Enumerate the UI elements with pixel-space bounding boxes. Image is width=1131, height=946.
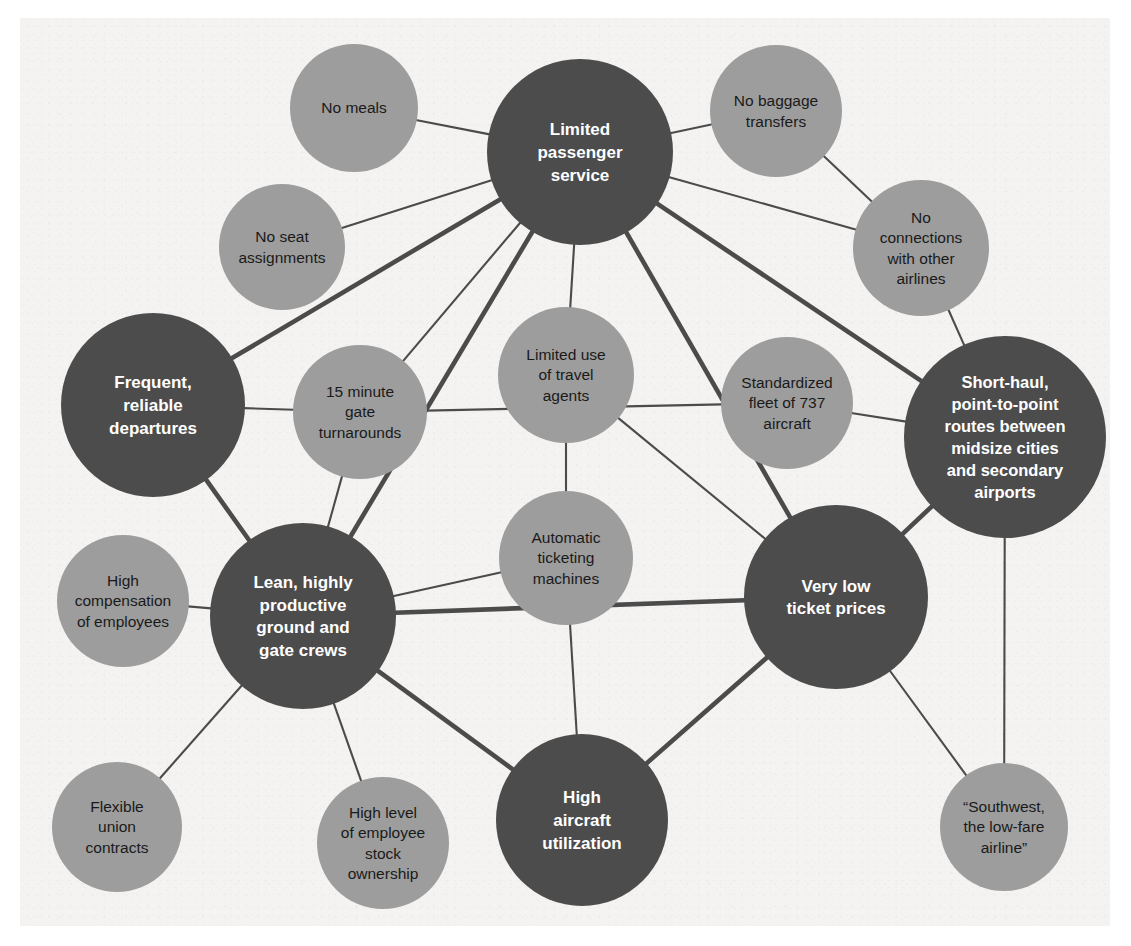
edge-automatic_ticketing_machines--high_aircraft_utilization [570,624,577,735]
edge-very_low_ticket_prices--southwest_low_fare_airline [890,671,967,777]
edge-frequent_reliable_departures--fifteen_minute_gate_turnarounds [244,408,294,410]
node-southwest_low_fare_airline[interactable]: “Southwest,the low-fareairline” [940,763,1068,891]
edge-short_haul_point_to_point--very_low_ticket_prices [902,506,932,535]
edge-lean_productive_crews--automatic_ticketing_machines [393,572,502,596]
node-no_meals[interactable]: No meals [290,44,418,172]
node-circle-short_haul_point_to_point[interactable] [904,336,1106,538]
activity-system-map: LimitedpassengerserviceNo mealsNo seatas… [0,0,1131,946]
edge-standardized_fleet_737--short_haul_point_to_point [851,413,906,422]
edge-no_seat_assignments--limited_passenger_service [341,180,492,228]
node-circle-high_level_employee_stock_ownership[interactable] [317,777,449,909]
node-lean_productive_crews[interactable]: Lean, highlyproductiveground andgate cre… [210,523,396,709]
edge-short_haul_point_to_point--southwest_low_fare_airline [1004,537,1005,764]
node-label-automatic_ticketing_machines: Automaticticketingmachines [532,529,601,587]
node-high_aircraft_utilization[interactable]: Highaircraftutilization [496,734,668,906]
edge-fifteen_minute_gate_turnarounds--lean_productive_crews [328,476,342,528]
node-frequent_reliable_departures[interactable]: Frequent,reliabledepartures [61,313,245,497]
edge-no_baggage_transfers--limited_passenger_service [670,124,712,133]
node-circle-very_low_ticket_prices[interactable] [744,505,928,689]
node-limited_passenger_service[interactable]: Limitedpassengerservice [487,59,673,245]
node-circle-no_seat_assignments[interactable] [219,184,345,310]
node-fifteen_minute_gate_turnarounds[interactable]: 15 minutegateturnarounds [293,345,427,479]
node-standardized_fleet_737[interactable]: Standardizedfleet of 737aircraft [721,337,853,469]
edge-lean_productive_crews--high_level_employee_stock_ownership [334,703,362,782]
nodes-layer: LimitedpassengerserviceNo mealsNo seatas… [52,44,1106,909]
edge-high_compensation_of_employees--lean_productive_crews [188,606,212,608]
node-short_haul_point_to_point[interactable]: Short-haul,point-to-pointroutes betweenm… [904,336,1106,538]
edge-very_low_ticket_prices--high_aircraft_utilization [646,657,768,764]
edge-limited_passenger_service--limited_use_of_travel_agents [570,244,574,308]
edge-limited_passenger_service--fifteen_minute_gate_turnarounds [403,222,521,361]
node-no_seat_assignments[interactable]: No seatassignments [219,184,345,310]
edge-no_connections_with_other_airlines--limited_passenger_service [669,177,857,230]
node-circle-no_connections_with_other_airlines[interactable] [853,180,989,316]
node-automatic_ticketing_machines[interactable]: Automaticticketingmachines [499,491,633,625]
node-very_low_ticket_prices[interactable]: Very lowticket prices [744,505,928,689]
edge-no_baggage_transfers--no_connections_with_other_airlines [823,156,872,202]
node-no_baggage_transfers[interactable]: No baggagetransfers [710,45,842,177]
node-flexible_union_contracts[interactable]: Flexibleunioncontracts [52,762,182,892]
edge-lean_productive_crews--flexible_union_contracts [159,685,242,779]
diagram-canvas: LimitedpassengerserviceNo mealsNo seatas… [0,0,1131,946]
node-no_connections_with_other_airlines[interactable]: Noconnectionswith otherairlines [853,180,989,316]
edge-no_connections_with_other_airlines--short_haul_point_to_point [948,309,964,345]
node-high_compensation_of_employees[interactable]: Highcompensationof employees [57,535,189,667]
node-limited_use_of_travel_agents[interactable]: Limited useof travelagents [498,307,634,443]
node-circle-lean_productive_crews[interactable] [210,523,396,709]
edge-no_meals--limited_passenger_service [416,120,490,134]
node-high_level_employee_stock_ownership[interactable]: High levelof employeestockownership [317,777,449,909]
node-label-no_meals: No meals [321,99,387,116]
edge-frequent_reliable_departures--lean_productive_crews [206,479,250,541]
edge-lean_productive_crews--high_aircraft_utilization [377,670,513,770]
node-circle-no_baggage_transfers[interactable] [710,45,842,177]
